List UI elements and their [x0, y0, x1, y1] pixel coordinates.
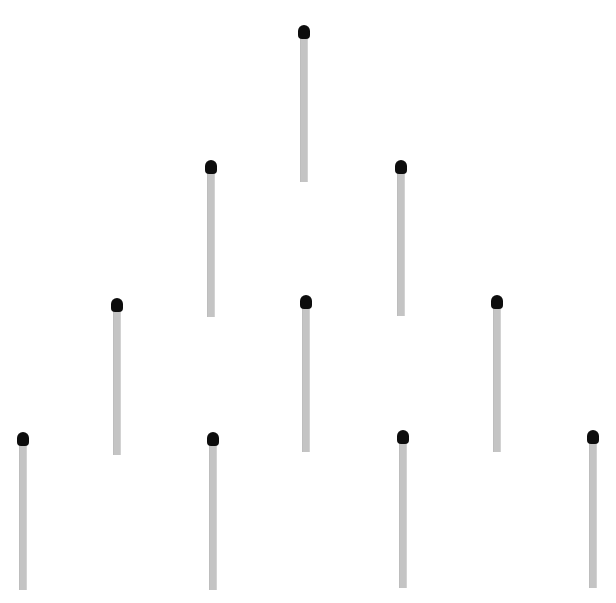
match-stick [113, 308, 121, 455]
match-stick [209, 442, 217, 590]
match-head-icon [491, 295, 503, 309]
matchstick-4 [110, 298, 124, 455]
match-stick [493, 305, 501, 452]
matchstick-6 [490, 295, 504, 452]
matchstick-7 [16, 432, 30, 590]
match-stick [397, 170, 405, 316]
match-head-icon [111, 298, 123, 312]
matchstick-2 [204, 160, 218, 317]
match-head-icon [298, 25, 310, 39]
matchstick-3 [394, 160, 408, 316]
matchstick-10 [586, 430, 600, 588]
match-head-icon [300, 295, 312, 309]
matchstick-5 [299, 295, 313, 452]
match-head-icon [205, 160, 217, 174]
matchstick-8 [206, 432, 220, 590]
match-stick [399, 440, 407, 588]
match-stick [19, 442, 27, 590]
match-stick [300, 35, 308, 182]
match-stick [302, 305, 310, 452]
matchstick-1 [297, 25, 311, 182]
match-head-icon [207, 432, 219, 446]
match-head-icon [397, 430, 409, 444]
match-head-icon [17, 432, 29, 446]
matchstick-canvas [0, 0, 616, 603]
match-stick [207, 170, 215, 317]
match-stick [589, 440, 597, 588]
match-head-icon [587, 430, 599, 444]
matchstick-9 [396, 430, 410, 588]
match-head-icon [395, 160, 407, 174]
